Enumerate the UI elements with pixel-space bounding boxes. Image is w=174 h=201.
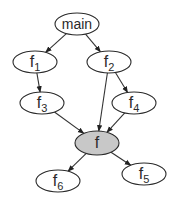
edge-f-to-f5 — [111, 152, 131, 165]
edge-main-to-f1 — [46, 34, 67, 53]
node-f4: f4 — [112, 92, 156, 114]
node-f6: f6 — [36, 170, 80, 192]
edge-f1-to-f3 — [37, 73, 40, 92]
node-f: f — [75, 131, 119, 155]
node-f3: f3 — [20, 92, 64, 114]
edge-f4-to-f — [107, 113, 125, 132]
edge-f3-to-f — [54, 112, 83, 133]
node-f5: f5 — [122, 163, 166, 185]
node-label: f — [95, 134, 100, 151]
node-f1: f1 — [13, 51, 57, 73]
edge-f2-to-f — [99, 73, 108, 131]
call-graph-diagram: mainf1f2f3f4ff6f5 — [0, 0, 174, 201]
node-label: main — [62, 16, 92, 32]
nodes-layer: mainf1f2f3f4ff6f5 — [13, 13, 166, 192]
node-f2: f2 — [87, 51, 131, 73]
edge-main-to-f2 — [86, 34, 101, 52]
edge-f2-to-f4 — [115, 73, 127, 93]
node-main: main — [55, 13, 99, 35]
edge-f-to-f6 — [68, 153, 86, 171]
